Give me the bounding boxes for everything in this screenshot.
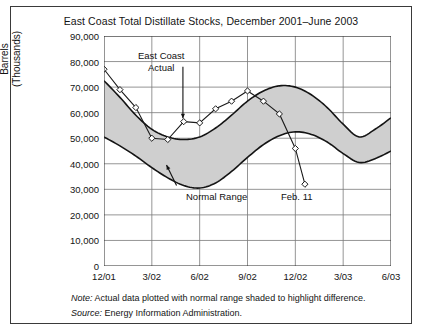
y-axis-title-line1: Barrels	[0, 43, 10, 75]
x-axis-tick-label: 3/03	[334, 271, 353, 282]
y-axis-title-line2: (Thousands)	[11, 0, 23, 119]
annotation-normal-range: Normal Range	[186, 191, 247, 203]
figure-source: Source: Energy Information Administratio…	[71, 308, 401, 318]
x-axis-tick-label: 6/02	[190, 271, 209, 282]
arrow-east-coast-actual-head	[181, 114, 185, 119]
y-axis-tick-label: 40,000	[41, 158, 99, 169]
data-point-marker	[228, 98, 234, 104]
y-axis-tick-label: 20,000	[41, 209, 99, 220]
y-axis-tick-label: 0	[41, 261, 99, 272]
data-point-marker	[292, 145, 298, 151]
figure-source-label: Source:	[71, 308, 102, 318]
y-axis-tick-label: 70,000	[41, 82, 99, 93]
annotation-feb-11: Feb. 11	[281, 191, 313, 203]
data-point-marker	[302, 181, 308, 187]
y-axis-title: Barrels (Thousands)	[0, 0, 23, 119]
figure-note: Note: Actual data plotted with normal ra…	[71, 293, 401, 303]
chart-title: East Coast Total Distillate Stocks, Dece…	[11, 15, 411, 27]
annotation-east-coast-actual: East Coast Actual	[138, 50, 184, 73]
y-axis-tick-label: 60,000	[41, 107, 99, 118]
y-axis-tick-label: 50,000	[41, 133, 99, 144]
y-axis-tick-label: 30,000	[41, 184, 99, 195]
y-axis-tick-label: 90,000	[41, 31, 99, 42]
y-axis-tick-labels: 010,00020,00030,00040,00050,00060,00070,…	[41, 36, 99, 266]
x-axis-tick-label: 12/01	[92, 271, 116, 282]
figure-frame: East Coast Total Distillate Stocks, Dece…	[10, 6, 412, 324]
y-axis-tick-label: 80,000	[41, 56, 99, 67]
y-axis-tick-label: 10,000	[41, 235, 99, 246]
figure-note-text: Actual data plotted with normal range sh…	[93, 293, 366, 303]
data-point-marker	[244, 88, 250, 94]
figure-note-label: Note:	[71, 293, 93, 303]
x-axis-tick-label: 3/02	[143, 271, 162, 282]
x-axis-tick-label: 12/02	[283, 271, 307, 282]
figure-source-text: Energy Information Administration.	[102, 308, 242, 318]
x-axis-tick-label: 6/03	[382, 271, 401, 282]
x-axis-tick-labels: 12/013/026/029/0212/023/036/03	[104, 271, 391, 287]
x-axis-tick-label: 9/02	[238, 271, 257, 282]
annotation-east-coast-line1: East Coast	[138, 50, 184, 61]
annotation-east-coast-line2: Actual	[148, 62, 174, 73]
